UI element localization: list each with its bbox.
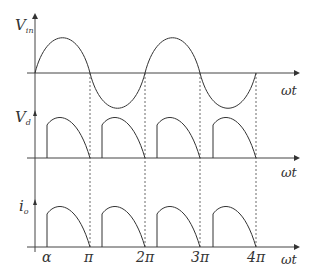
waveform-svg <box>0 0 312 276</box>
vin-label: Vin <box>15 18 34 35</box>
io-x-label: ωt <box>281 253 297 266</box>
tick-2pi: 2π <box>136 250 154 264</box>
tick-4pi: 4π <box>247 250 265 264</box>
vd-waveform <box>47 117 256 158</box>
io-waveform <box>47 206 256 247</box>
tick-alpha: α <box>42 250 51 264</box>
waveform-diagram: Vin Vd io ωt ωt ωt α π 2π 3π 4π <box>0 0 312 276</box>
vd-x-label: ωt <box>281 166 297 179</box>
io-label: io <box>19 199 29 216</box>
tick-pi: π <box>84 250 93 264</box>
io-axis-arrow-icon <box>33 199 37 205</box>
vd-axis-arrow-icon <box>33 110 37 116</box>
vd-label: Vd <box>15 110 31 127</box>
tick-3pi: 3π <box>191 250 209 264</box>
dashed-guides <box>90 73 256 248</box>
vin-x-label: ωt <box>281 84 297 97</box>
